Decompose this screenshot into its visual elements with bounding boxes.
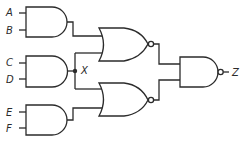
junction-x-dot bbox=[73, 69, 77, 73]
nor-gate-1-inversion-bubble bbox=[148, 41, 153, 46]
nand-gate-inversion-bubble bbox=[218, 69, 223, 74]
input-label-c: C bbox=[6, 57, 13, 68]
input-label-e: E bbox=[6, 107, 13, 118]
nor-gate-2-inversion-bubble bbox=[148, 97, 153, 102]
nor-gate-2 bbox=[99, 83, 148, 116]
nand-gate bbox=[180, 57, 218, 87]
nor-to-nand-wires bbox=[154, 44, 180, 100]
output-label-z: Z bbox=[231, 67, 240, 78]
input-label-d: D bbox=[6, 74, 14, 85]
input-label-f: F bbox=[6, 123, 12, 134]
input-label-a: A bbox=[5, 7, 13, 18]
and-gate-3 bbox=[26, 105, 67, 135]
and-gate-1 bbox=[26, 7, 67, 37]
node-label-x: X bbox=[80, 65, 89, 76]
nor-gate-1 bbox=[99, 28, 148, 61]
input-wires bbox=[19, 13, 26, 128]
logic-circuit-diagram: A B C D E F X bbox=[0, 0, 249, 142]
input-label-b: B bbox=[6, 25, 13, 36]
and-gate-2 bbox=[26, 56, 67, 87]
